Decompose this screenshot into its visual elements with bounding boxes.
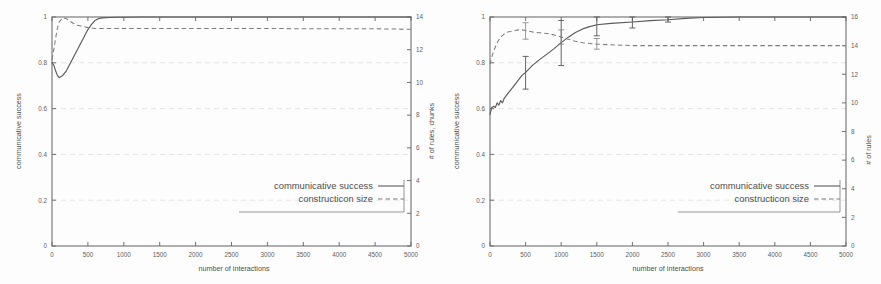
chart-svg-left: 0500100015002000250030003500400045005000… — [0, 0, 441, 284]
chart-panel-right: 0500100015002000250030003500400045005000… — [441, 0, 881, 284]
legend-right: communicative success constructicon size — [678, 180, 840, 212]
x-tick-label: 500 — [520, 251, 531, 258]
y-tick-label-right: 0 — [416, 242, 420, 249]
x-tick-label: 4500 — [368, 251, 383, 258]
y-tick-label-right: 4 — [416, 177, 420, 184]
chart-svg-right: 0500100015002000250030003500400045005000… — [441, 0, 881, 284]
y-tick-label-right: 8 — [416, 111, 420, 118]
y-tick-label-left: 0.4 — [38, 151, 47, 158]
x-tick-label: 3000 — [260, 251, 275, 258]
x-tick-label: 3500 — [296, 251, 311, 258]
y-tick-label-right: 12 — [416, 46, 424, 53]
x-tick-label: 1500 — [590, 251, 605, 258]
legend-left: communicative success constructicon size — [239, 180, 404, 212]
y-tick-label-left: 0.8 — [476, 59, 485, 66]
x-tick-label: 1000 — [117, 251, 132, 258]
y-tick-label-left: 0 — [481, 242, 485, 249]
tick-labels-right: 0500100015002000250030003500400045005000… — [476, 13, 858, 258]
y-tick-label-right: 2 — [851, 214, 855, 221]
y-tick-label-left: 0 — [43, 242, 47, 249]
y-tick-label-right: 10 — [851, 99, 859, 106]
x-tick-label: 4000 — [768, 251, 783, 258]
x-tick-label: 3500 — [732, 251, 747, 258]
y-tick-label-right: 2 — [416, 210, 420, 217]
x-tick-label: 2500 — [661, 251, 676, 258]
y-tick-label-right: 0 — [851, 242, 855, 249]
series-group-left — [52, 17, 411, 78]
y-tick-label-right: 14 — [416, 13, 424, 20]
x-tick-label: 2000 — [625, 251, 640, 258]
error-bars-right — [523, 17, 671, 89]
y-axis-label-right: communicative success — [452, 93, 461, 169]
figure-container: 0500100015002000250030003500400045005000… — [0, 0, 881, 284]
series-line-solid — [52, 17, 411, 78]
x-tick-label: 3000 — [697, 251, 712, 258]
y-tick-label-left: 0.6 — [476, 105, 485, 112]
x-axis-label-right: number of interactions — [632, 264, 704, 273]
legend-label-constructicon-size-left: constructicon size — [298, 193, 373, 204]
y-tick-label-left: 1 — [43, 13, 47, 20]
y-tick-label-right: 16 — [851, 13, 859, 20]
y-tick-label-right: 8 — [851, 128, 855, 135]
y-tick-label-right: 12 — [851, 71, 859, 78]
legend-label-communicative-success-left: communicative success — [274, 180, 373, 191]
x-tick-label: 4000 — [332, 251, 347, 258]
y-tick-label-left: 1 — [481, 13, 485, 20]
y-tick-label-right: 4 — [851, 185, 855, 192]
y2-axis-label-right: # of rules — [864, 135, 873, 165]
y-tick-label-left: 0.2 — [38, 197, 47, 204]
y-tick-label-right: 14 — [851, 42, 859, 49]
y-tick-label-left: 0.4 — [476, 151, 485, 158]
series-group-right — [490, 17, 846, 114]
y-tick-label-right: 10 — [416, 79, 424, 86]
x-tick-label: 4500 — [803, 251, 818, 258]
series-line-dashed — [52, 18, 411, 60]
tick-labels-left: 0500100015002000250030003500400045005000… — [38, 13, 423, 258]
x-tick-label: 1500 — [153, 251, 168, 258]
x-tick-label: 2000 — [189, 251, 204, 258]
y-tick-label-left: 0.8 — [38, 59, 47, 66]
x-tick-label: 0 — [488, 251, 492, 258]
y-axis-label-left: communicative success — [14, 93, 23, 169]
series-line-solid — [490, 17, 846, 114]
x-axis-label-left: number of interactions — [198, 264, 270, 273]
x-tick-label: 5000 — [839, 251, 854, 258]
y-tick-label-left: 0.2 — [476, 197, 485, 204]
x-tick-label: 2500 — [224, 251, 239, 258]
x-tick-label: 5000 — [404, 251, 419, 258]
legend-label-constructicon-size-right: constructicon size — [734, 193, 809, 204]
chart-panel-left: 0500100015002000250030003500400045005000… — [0, 0, 441, 284]
legend-label-communicative-success-right: communicative success — [710, 180, 809, 191]
y-tick-label-left: 0.6 — [38, 105, 47, 112]
y2-axis-label-left: # of rules, chunks — [427, 102, 436, 159]
y-tick-label-right: 6 — [851, 156, 855, 163]
x-tick-label: 500 — [83, 251, 94, 258]
y-tick-label-right: 6 — [416, 144, 420, 151]
x-tick-label: 1000 — [554, 251, 569, 258]
x-tick-label: 0 — [50, 251, 54, 258]
series-line-dashed — [490, 30, 846, 64]
